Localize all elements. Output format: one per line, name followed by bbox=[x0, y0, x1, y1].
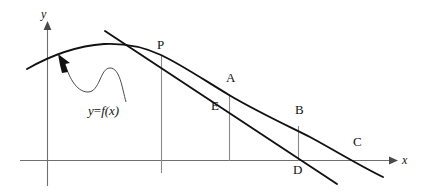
function-label: y=f(x) bbox=[88, 104, 119, 117]
point-label-e: E bbox=[211, 99, 219, 112]
leader-squiggle bbox=[64, 60, 126, 102]
x-axis-label: x bbox=[402, 154, 407, 166]
y-axis bbox=[44, 21, 52, 186]
y-axis-label: y bbox=[41, 8, 46, 20]
leader-arrowhead bbox=[58, 54, 70, 73]
point-label-a: A bbox=[226, 71, 235, 84]
function-curve bbox=[27, 44, 383, 177]
point-label-b: B bbox=[295, 103, 304, 116]
point-label-p: P bbox=[157, 38, 164, 51]
function-label-leader bbox=[58, 54, 126, 102]
function-label-rhs-arg: (x) bbox=[105, 103, 119, 118]
point-label-d: D bbox=[293, 163, 302, 176]
x-axis bbox=[20, 157, 398, 165]
tangent-line-figure: y x P A E B D C y=f(x) bbox=[0, 0, 425, 194]
figure-canvas bbox=[0, 0, 425, 194]
point-label-c: C bbox=[353, 135, 362, 148]
